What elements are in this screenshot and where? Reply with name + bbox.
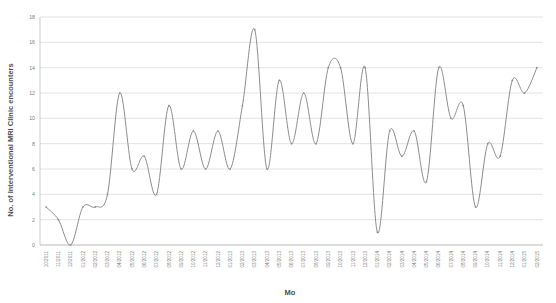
data-point xyxy=(327,67,329,69)
x-tick-label: 10/2011 xyxy=(44,251,49,268)
data-point xyxy=(205,168,207,170)
data-point xyxy=(58,219,60,221)
data-point xyxy=(278,79,280,81)
x-tick-label: 04/2012 xyxy=(117,251,122,268)
x-tick-label: 08/2013 xyxy=(314,251,319,268)
x-tick-label: 11/2014 xyxy=(498,251,503,268)
data-point xyxy=(438,67,440,69)
y-tick-label: 16 xyxy=(29,39,35,45)
y-tick-label: 12 xyxy=(29,90,35,96)
data-point xyxy=(45,206,47,208)
data-point xyxy=(377,231,379,233)
x-tick-label: 12/2014 xyxy=(510,251,515,268)
x-tick-label: 07/2012 xyxy=(154,251,159,268)
x-tick-label: 02/2015 xyxy=(535,251,540,268)
data-point xyxy=(462,105,464,107)
y-tick-label: 2 xyxy=(32,217,35,223)
data-point xyxy=(340,67,342,69)
data-point xyxy=(389,130,391,132)
y-tick-label: 8 xyxy=(32,141,35,147)
chart-container: 024681012141618 10/201111/201112/201101/… xyxy=(0,0,556,303)
data-point xyxy=(315,143,317,145)
data-point xyxy=(536,67,538,69)
series-line-encounters xyxy=(46,28,537,245)
data-point xyxy=(180,168,182,170)
x-tick-label: 10/2013 xyxy=(338,251,343,268)
data-point xyxy=(413,130,415,132)
x-tick-label: 03/2014 xyxy=(400,251,405,268)
data-point xyxy=(156,193,158,195)
data-point xyxy=(524,92,526,94)
y-tick-label: 14 xyxy=(29,65,35,71)
x-tick-label: 12/2013 xyxy=(363,251,368,268)
x-tick-label: 01/2013 xyxy=(228,251,233,268)
data-point xyxy=(217,130,219,132)
x-tick-label: 03/2012 xyxy=(105,251,110,268)
x-tick-label: 09/2013 xyxy=(326,251,331,268)
data-point xyxy=(364,67,366,69)
x-tick-label: 03/2013 xyxy=(252,251,257,268)
y-axis-title: No. of Interventional MRI Clinic encount… xyxy=(6,63,15,216)
x-tick-label: 01/2015 xyxy=(522,251,527,268)
data-point xyxy=(229,168,231,170)
x-tick-label: 09/2012 xyxy=(179,251,184,268)
data-point xyxy=(82,206,84,208)
x-tick-label: 08/2014 xyxy=(461,251,466,268)
x-tick-label: 11/2012 xyxy=(203,251,208,268)
data-point xyxy=(254,29,256,31)
x-tick-label: 02/2013 xyxy=(240,251,245,268)
x-tick-label: 01/2014 xyxy=(375,251,380,268)
x-tick-label: 06/2012 xyxy=(142,251,147,268)
x-tick-label: 08/2012 xyxy=(167,251,172,268)
x-tick-label: 02/2014 xyxy=(387,251,392,268)
x-tick-label: 05/2012 xyxy=(130,251,135,268)
axis-lines xyxy=(40,17,543,245)
data-point xyxy=(107,193,109,195)
y-tick-label: 10 xyxy=(29,115,35,121)
x-tick-label: 05/2013 xyxy=(277,251,282,268)
data-series xyxy=(45,28,537,245)
x-tick-label: 09/2014 xyxy=(473,251,478,268)
x-axis-tick-labels: 10/201111/201112/201101/201202/201203/20… xyxy=(44,251,540,268)
data-point xyxy=(426,181,428,183)
data-point xyxy=(193,130,195,132)
x-tick-label: 05/2014 xyxy=(424,251,429,268)
data-point xyxy=(94,206,96,208)
gridlines xyxy=(40,17,543,245)
x-tick-label: 12/2012 xyxy=(216,251,221,268)
line-chart: 024681012141618 10/201111/201112/201101/… xyxy=(0,0,556,303)
x-tick-label: 01/2012 xyxy=(81,251,86,268)
data-point xyxy=(266,168,268,170)
y-tick-label: 18 xyxy=(29,14,35,20)
data-point xyxy=(303,92,305,94)
x-tick-label: 04/2013 xyxy=(265,251,270,268)
data-point xyxy=(70,244,72,246)
data-point xyxy=(475,206,477,208)
data-point xyxy=(487,143,489,145)
y-tick-label: 4 xyxy=(32,191,35,197)
x-tick-label: 07/2014 xyxy=(449,251,454,268)
data-point xyxy=(168,105,170,107)
x-tick-label: 02/2012 xyxy=(93,251,98,268)
data-point xyxy=(352,143,354,145)
data-point xyxy=(242,105,244,107)
x-tick-label: 06/2013 xyxy=(289,251,294,268)
data-point xyxy=(119,92,121,94)
data-point xyxy=(401,155,403,157)
y-tick-label: 6 xyxy=(32,166,35,172)
data-point xyxy=(131,168,133,170)
data-point xyxy=(291,143,293,145)
x-tick-label: 10/2012 xyxy=(191,251,196,268)
x-tick-label: 10/2014 xyxy=(485,251,490,268)
x-axis-title: Mo xyxy=(285,288,296,297)
data-point xyxy=(499,155,501,157)
data-point xyxy=(511,79,513,81)
data-point xyxy=(143,155,145,157)
x-tick-label: 11/2011 xyxy=(56,251,61,267)
y-axis-tick-labels: 024681012141618 xyxy=(29,14,35,248)
y-tick-label: 0 xyxy=(32,242,35,248)
x-tick-label: 11/2013 xyxy=(351,251,356,268)
x-tick-label: 07/2013 xyxy=(301,251,306,268)
x-tick-label: 04/2014 xyxy=(412,251,417,268)
x-tick-label: 06/2014 xyxy=(436,251,441,268)
